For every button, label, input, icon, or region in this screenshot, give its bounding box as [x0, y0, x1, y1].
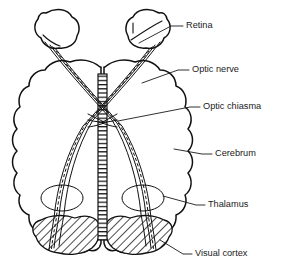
- label-thalamus: Thalamus: [208, 199, 249, 209]
- visual-pathway-diagram: Retina Optic nerve Optic chiasma Cerebru…: [0, 0, 291, 274]
- label-optic-nerve: Optic nerve: [192, 64, 239, 74]
- midline-band: [98, 74, 107, 240]
- label-retina: Retina: [186, 20, 213, 30]
- label-visual-cortex: Visual cortex: [195, 248, 248, 258]
- diagram-canvas: Retina Optic nerve Optic chiasma Cerebru…: [0, 0, 291, 274]
- label-cerebrum: Cerebrum: [215, 148, 256, 158]
- label-optic-chiasma: Optic chiasma: [203, 101, 262, 111]
